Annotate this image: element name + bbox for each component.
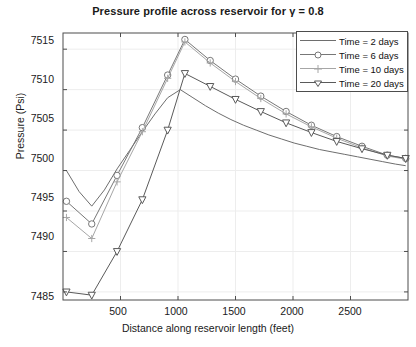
x-tick-label: 1000 xyxy=(146,305,206,317)
legend-swatch-line xyxy=(297,34,339,48)
chart-figure: Pressure profile across reservoir for γ … xyxy=(0,0,416,347)
legend-label: Time = 6 days xyxy=(339,50,399,61)
y-tick-label: 7490 xyxy=(8,230,54,242)
plus-marker-icon xyxy=(314,65,323,74)
x-tick-label: 1500 xyxy=(204,305,264,317)
legend-item-2-days[interactable]: Time = 2 days xyxy=(297,34,407,48)
x-tick-label: 2000 xyxy=(262,305,322,317)
y-tick-label: 7505 xyxy=(8,112,54,124)
legend-item-6-days[interactable]: Time = 6 days xyxy=(297,48,407,62)
circle-marker-icon xyxy=(314,51,323,60)
y-tick-label: 7510 xyxy=(8,73,54,85)
legend-swatch-plus xyxy=(297,62,339,76)
triangle-down-marker-icon xyxy=(314,79,323,88)
y-tick-label: 7485 xyxy=(8,290,54,302)
x-tick-label: 2500 xyxy=(320,305,380,317)
legend-swatch-circle xyxy=(297,48,339,62)
legend-item-20-days[interactable]: Time = 20 days xyxy=(297,76,407,90)
chart-legend: Time = 2 days Time = 6 days Time = 10 da… xyxy=(296,31,408,92)
legend-label: Time = 20 days xyxy=(339,78,404,89)
legend-label: Time = 2 days xyxy=(339,36,399,47)
y-tick-label: 7500 xyxy=(8,152,54,164)
x-axis-label: Distance along reservoir length (feet) xyxy=(0,322,416,334)
x-tick-label: 500 xyxy=(88,305,148,317)
chart-title: Pressure profile across reservoir for γ … xyxy=(0,5,416,17)
legend-label: Time = 10 days xyxy=(339,64,404,75)
y-tick-label: 7495 xyxy=(8,191,54,203)
legend-swatch-triangle xyxy=(297,76,339,90)
legend-item-10-days[interactable]: Time = 10 days xyxy=(297,62,407,76)
y-tick-label: 7515 xyxy=(8,34,54,46)
